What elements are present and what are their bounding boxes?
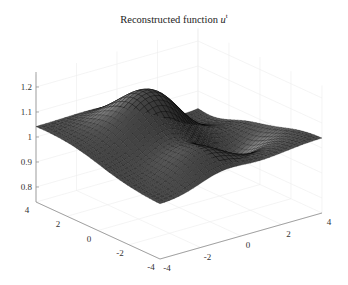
surface-plot-figure: Reconstructed function ut 0.80.911.11.24…	[0, 0, 348, 285]
y-tick-label: 0	[87, 234, 92, 244]
y-tick-label: 4	[25, 205, 30, 215]
x-tick-label: 0	[246, 240, 251, 250]
z-tick-label: 1.1	[21, 107, 32, 117]
x-tick-label: 4	[327, 217, 332, 227]
z-tick-label: 1.2	[21, 82, 32, 92]
x-tick-label: 2	[286, 229, 291, 239]
plot-area: 0.80.911.11.2420-2-4-4-2024	[0, 0, 348, 285]
z-tick-label: 1	[28, 132, 33, 142]
y-tick-label: -2	[116, 248, 124, 258]
y-tick-label: 2	[56, 219, 61, 229]
y-tick-label: -4	[147, 262, 155, 272]
x-tick-label: -4	[163, 263, 171, 273]
z-tick-label: 0.9	[21, 157, 33, 167]
z-tick-label: 0.8	[21, 182, 33, 192]
surface-mesh	[36, 89, 322, 204]
x-tick-label: -2	[204, 252, 212, 262]
